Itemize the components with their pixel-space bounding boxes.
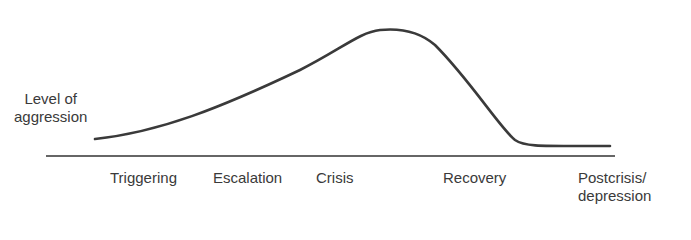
phase-label-postcrisis-line1: Postcrisis/	[578, 169, 651, 187]
phase-label-triggering: Triggering	[110, 169, 177, 187]
phase-label-recovery: Recovery	[443, 169, 506, 187]
aggression-curve	[95, 30, 610, 147]
phase-label-postcrisis-line2: depression	[578, 187, 651, 205]
y-axis-label-line2: aggression	[14, 108, 87, 126]
phase-label-escalation: Escalation	[213, 169, 282, 187]
y-axis-label-line1: Level of	[14, 90, 87, 108]
y-axis-label: Level of aggression	[14, 90, 87, 126]
phase-label-postcrisis: Postcrisis/ depression	[578, 169, 651, 205]
phase-label-crisis: Crisis	[316, 169, 354, 187]
